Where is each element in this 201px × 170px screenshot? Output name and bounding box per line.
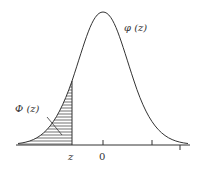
curve-label: φ (z) xyxy=(124,22,147,33)
z-label: z xyxy=(67,151,74,162)
area-label: Φ (z) xyxy=(15,103,40,114)
zero-label: 0 xyxy=(99,151,105,162)
normal-distribution-diagram: φ (z) Φ (z) z 0 xyxy=(0,0,201,170)
shaded-area xyxy=(18,84,72,144)
density-curve xyxy=(18,12,188,144)
